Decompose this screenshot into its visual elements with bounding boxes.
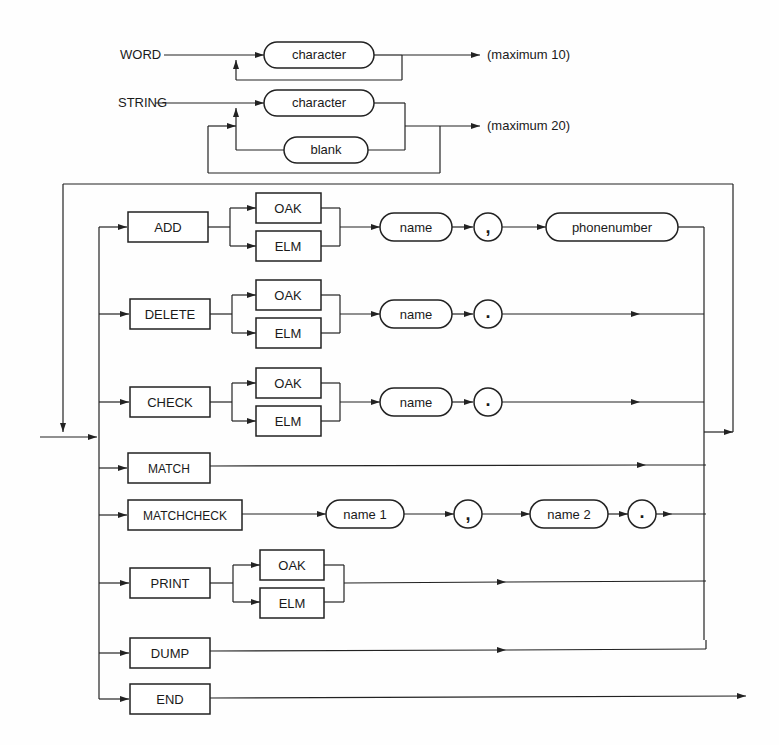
word-rule-name: WORD (120, 47, 161, 62)
add-phonenumber-terminal: phonenumber (572, 220, 653, 235)
delete-elm-option: ELM (275, 326, 302, 341)
delete-oak-option: OAK (274, 288, 302, 303)
command-delete: DELETE OAK ELM name . (99, 280, 704, 348)
syntax-diagram: WORD character (maximum 10) STRING chara… (0, 0, 779, 745)
matchcheck-comma-terminal: , (465, 504, 470, 524)
check-elm-option: ELM (275, 414, 302, 429)
delete-name-terminal: name (400, 307, 433, 322)
command-dump: DUMP (99, 638, 706, 668)
add-keyword: ADD (154, 220, 181, 235)
matchcheck-name2-terminal: name 2 (547, 507, 590, 522)
string-max-note: (maximum 20) (487, 118, 570, 133)
word-max-note: (maximum 10) (487, 47, 570, 62)
add-elm-option: ELM (275, 239, 302, 254)
add-comma-terminal: , (485, 217, 490, 237)
matchcheck-keyword: MATCHCHECK (143, 509, 227, 523)
word-rule: WORD character (maximum 10) (120, 42, 570, 80)
command-loop (40, 184, 733, 699)
string-blank-label: blank (310, 142, 342, 157)
print-keyword: PRINT (151, 576, 190, 591)
match-keyword: MATCH (148, 462, 190, 476)
print-oak-option: OAK (278, 558, 306, 573)
command-matchcheck: MATCHCHECK name 1 , name 2 . (99, 500, 706, 530)
word-character-label: character (292, 47, 347, 62)
check-oak-option: OAK (274, 376, 302, 391)
dump-keyword: DUMP (151, 646, 189, 661)
string-character-label: character (292, 95, 347, 110)
matchcheck-name1-terminal: name 1 (343, 507, 386, 522)
check-name-terminal: name (400, 395, 433, 410)
delete-keyword: DELETE (145, 307, 196, 322)
command-match: MATCH (99, 453, 706, 483)
check-period-terminal: . (485, 390, 490, 410)
print-elm-option: ELM (279, 596, 306, 611)
command-add: ADD OAK ELM name , phonenumber (99, 193, 704, 261)
check-keyword: CHECK (147, 395, 193, 410)
add-oak-option: OAK (274, 201, 302, 216)
command-check: CHECK OAK ELM name . (99, 368, 704, 436)
add-name-terminal: name (400, 220, 433, 235)
matchcheck-period-terminal: . (639, 502, 644, 522)
command-end: END (99, 684, 746, 714)
end-keyword: END (156, 692, 183, 707)
string-rule: STRING character blank (maximum 20) (118, 90, 570, 173)
delete-period-terminal: . (485, 302, 490, 322)
command-print: PRINT OAK ELM (99, 550, 706, 618)
